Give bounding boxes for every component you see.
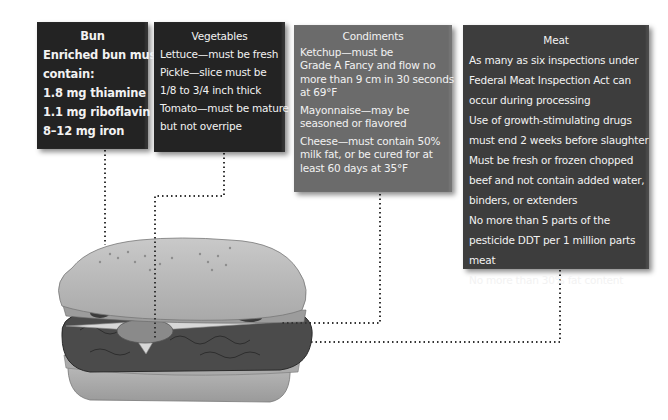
bun-line: contain: — [43, 65, 142, 84]
vegetables-line: 1/8 to 3/4 inch thick — [160, 81, 279, 99]
bun-title: Bun — [43, 27, 142, 46]
ketchup-requirement: Ketchup—must be Grade A Fancy and flow n… — [300, 46, 446, 100]
meat-requirements-box: Meat As many as six inspections under Fe… — [463, 25, 649, 269]
condiments-requirements-box: Condiments Ketchup—must be Grade A Fancy… — [294, 25, 452, 192]
condiments-line: at 69°F — [300, 86, 446, 100]
bun-line: 8–12 mg iron — [43, 122, 142, 141]
meat-line: Federal Meat Inspection Act can — [469, 70, 643, 90]
condiments-connector — [280, 194, 380, 323]
meat-line: beef and not contain added water, — [469, 170, 643, 190]
vegetables-line: Tomato—must be mature — [160, 99, 279, 117]
meat-line: meat — [469, 250, 643, 270]
vegetables-title: Vegetables — [160, 27, 279, 45]
condiments-line: more than 9 cm in 30 seconds — [300, 73, 446, 87]
vegetables-line: but not overripe — [160, 117, 279, 135]
condiments-line: milk fat, or be cured for at — [300, 148, 446, 162]
condiments-title: Condiments — [300, 30, 446, 44]
meat-line: No more than 5 parts of the — [469, 210, 643, 230]
vegetables-line: Lettuce—must be fresh — [160, 45, 279, 63]
mayonnaise-requirement: Mayonnaise—may be seasoned or flavored — [300, 104, 446, 131]
meat-line: As many as six inspections under — [469, 50, 643, 70]
bun-line: 1.1 mg riboflavin — [43, 103, 142, 122]
meat-line: pesticide DDT per 1 million parts — [469, 230, 643, 250]
bun-line: Enriched bun must — [43, 46, 142, 65]
condiments-line: seasoned or flavored — [300, 117, 446, 131]
meat-line: Must be fresh or frozen chopped — [469, 150, 643, 170]
condiments-line: least 60 days at 35°F — [300, 162, 446, 176]
vegetables-requirements-box: Vegetables Lettuce—must be fresh Pickle—… — [154, 22, 285, 152]
meat-line: Use of growth-stimulating drugs — [469, 110, 643, 130]
meat-line: binders, or extenders — [469, 190, 643, 210]
meat-line: occur during processing — [469, 90, 643, 110]
cheese-requirement: Cheese—must contain 50% milk fat, or be … — [300, 135, 446, 176]
bun-requirements-box: Bun Enriched bun must contain: 1.8 mg th… — [37, 22, 148, 149]
condiments-line: Ketchup—must be — [300, 46, 446, 60]
condiments-line: Cheese—must contain 50% — [300, 135, 446, 149]
vegetables-line: Pickle—slice must be — [160, 63, 279, 81]
meat-title: Meat — [469, 30, 643, 50]
condiments-line: Grade A Fancy and flow no — [300, 59, 446, 73]
meat-line: must end 2 weeks before slaughter — [469, 130, 643, 150]
condiments-line: Mayonnaise—may be — [300, 104, 446, 118]
meat-line: No more than 30% fat content — [469, 270, 643, 290]
vegetables-connector — [155, 153, 224, 338]
bun-line: 1.8 mg thiamine — [43, 84, 142, 103]
